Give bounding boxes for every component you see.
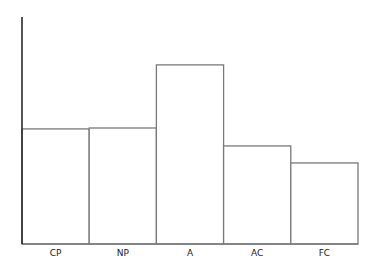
bar-fc [291,163,358,244]
x-tick-label-cp: CP [50,248,62,258]
x-tick-label-fc: FC [319,248,330,258]
bar-cp [22,129,89,244]
x-tick-label-np: NP [117,248,130,258]
bar-a [156,65,223,244]
x-tick-label-ac: AC [251,248,263,258]
bar-ac [224,146,291,244]
x-tick-label-a: A [187,248,194,258]
x-tick-labels: CPNPAACFC [50,248,330,258]
bars-group [22,65,358,244]
bar-chart: CPNPAACFC [0,0,377,270]
bar-np [89,128,156,244]
